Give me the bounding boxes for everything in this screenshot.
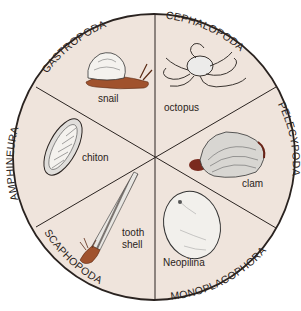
example-label-clam: clam [242,178,263,189]
example-label-octopus: octopus [164,102,199,113]
example-label-snail: snail [98,93,119,104]
example-label-neopilina: Neopilina [163,257,205,268]
example-label-chiton: chiton [82,152,109,163]
mollusk-classes-diagram: GASTROPODA CEPHALOPODA PELECYPODA MONOPL… [0,0,301,311]
example-label-tooth: tooth [122,227,144,238]
example-label-shell: shell [122,239,143,250]
